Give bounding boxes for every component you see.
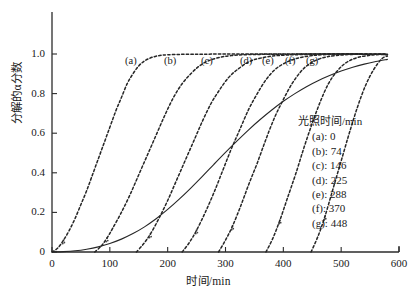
x-axis-title: 时间/min <box>0 272 417 288</box>
y-axis-title: 分解的α分数 <box>8 33 24 153</box>
x-tick-label: 500 <box>321 257 361 269</box>
x-tick-label: 100 <box>90 257 130 269</box>
data-point-marker <box>63 242 65 244</box>
data-point-marker <box>62 243 64 245</box>
curve-label-f: (f) <box>285 55 296 66</box>
data-point-marker <box>107 240 109 242</box>
legend-item-c: (c): 146 <box>312 158 362 172</box>
x-tick-label: 300 <box>206 257 246 269</box>
data-point-marker <box>278 223 280 225</box>
y-tick-label: 0.4 <box>3 166 45 178</box>
curve-label-a: (a) <box>125 55 137 66</box>
curve-label-b: (b) <box>164 55 176 66</box>
data-point-marker <box>63 239 65 241</box>
legend-item-d: (d): 225 <box>312 173 362 187</box>
x-tick-label: 600 <box>379 257 417 269</box>
curve-label-d: (d) <box>240 55 252 66</box>
data-point-marker <box>105 241 107 243</box>
data-point-marker <box>106 237 108 239</box>
figure-container: 00.20.40.60.81.0 0100200300400500600 (a)… <box>0 0 417 295</box>
data-point-marker <box>232 225 234 227</box>
x-tick-label: 0 <box>32 257 72 269</box>
data-point-marker <box>279 219 281 221</box>
x-tick-label: 400 <box>263 257 303 269</box>
data-markers <box>62 215 327 244</box>
legend-item-e: (e): 288 <box>312 187 362 201</box>
x-tick-label: 200 <box>148 257 188 269</box>
curve-label-g: (g) <box>306 55 318 66</box>
legend-title: 光照时间/min <box>298 114 362 128</box>
data-point-marker <box>196 229 198 231</box>
curve-label-c: (c) <box>201 55 213 66</box>
legend-item-a: (a): 0 <box>312 129 362 143</box>
y-tick-label: 0.2 <box>3 205 45 217</box>
legend-item-g: (g): 448 <box>312 216 362 230</box>
legend-item-f: (f): 370 <box>312 201 362 215</box>
data-point-marker <box>195 233 197 235</box>
data-point-marker <box>149 237 151 239</box>
data-point-marker <box>280 222 282 224</box>
data-point-marker <box>149 233 151 235</box>
data-point-marker <box>150 236 152 238</box>
curve-label-e: (e) <box>262 55 274 66</box>
legend-item-b: (b): 74 <box>312 144 362 158</box>
data-point-marker <box>231 229 233 231</box>
y-tick-label: 0 <box>3 245 45 257</box>
data-point-marker <box>232 228 234 230</box>
legend: 光照时间/min (a): 0(b): 74(c): 146(d): 225(e… <box>298 114 362 230</box>
data-point-marker <box>196 232 198 234</box>
legend-entries: (a): 0(b): 74(c): 146(d): 225(e): 288(f)… <box>312 129 362 230</box>
